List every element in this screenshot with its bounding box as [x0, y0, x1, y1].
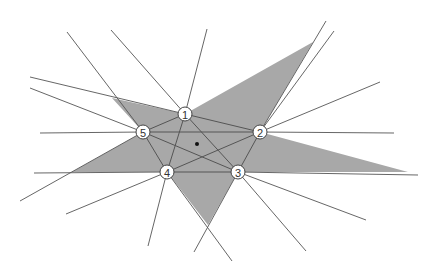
node-label: 4 [164, 167, 170, 179]
node-3: 3 [231, 165, 245, 179]
node-4: 4 [160, 165, 174, 179]
node-5: 5 [136, 125, 150, 139]
node-label: 3 [235, 167, 241, 179]
node-2: 2 [253, 125, 267, 139]
node-label: 5 [140, 127, 146, 139]
node-label: 2 [257, 127, 263, 139]
center-dot [195, 142, 199, 146]
node-1: 1 [178, 107, 192, 121]
node-label: 1 [182, 109, 188, 121]
star-diagram: 12345 [0, 0, 437, 273]
